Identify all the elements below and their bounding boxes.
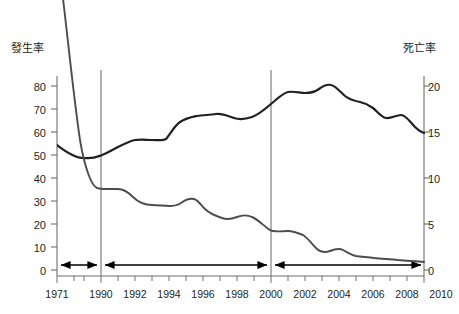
right-axis-ticks — [424, 86, 430, 270]
chart-plot-area — [0, 0, 459, 314]
left-axis-ticks — [51, 86, 57, 270]
x-axis-ticks — [57, 276, 424, 283]
incidence-line — [57, 85, 424, 159]
mortality-line — [62, 0, 424, 262]
chart-container: 發生率 死亡率 80 70 60 50 40 30 20 10 0 20 15 … — [0, 0, 459, 314]
